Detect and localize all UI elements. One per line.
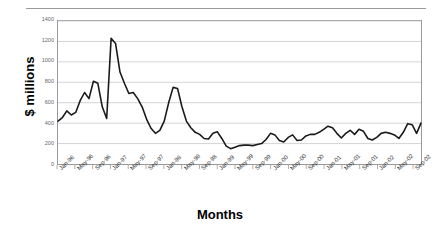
- series-polyline: [58, 38, 421, 148]
- y-tick-label: 800: [45, 79, 54, 85]
- y-tick-label: 600: [45, 100, 54, 106]
- chart-figure: $ millions 1400120010008006004002000 Jan…: [0, 0, 440, 237]
- y-tick-label: 1400: [42, 17, 54, 23]
- y-tick-label: 1000: [42, 58, 54, 64]
- y-axis-tick-labels: 1400120010008006004002000: [36, 20, 54, 165]
- x-axis-title: Months: [0, 207, 440, 222]
- y-axis-title: $ millions: [22, 27, 37, 147]
- y-tick-label: 200: [45, 141, 54, 147]
- y-tick-label: 0: [51, 162, 54, 168]
- x-axis-tick-labels: Jan-96May-96Sep-96Jan-97May-97Sep-97Jan-…: [57, 167, 422, 207]
- top-divider-rule: [26, 8, 426, 9]
- y-tick-label: 1200: [42, 38, 54, 44]
- data-series-line: [58, 21, 421, 164]
- plot-area: [57, 20, 422, 165]
- y-tick-label: 400: [45, 121, 54, 127]
